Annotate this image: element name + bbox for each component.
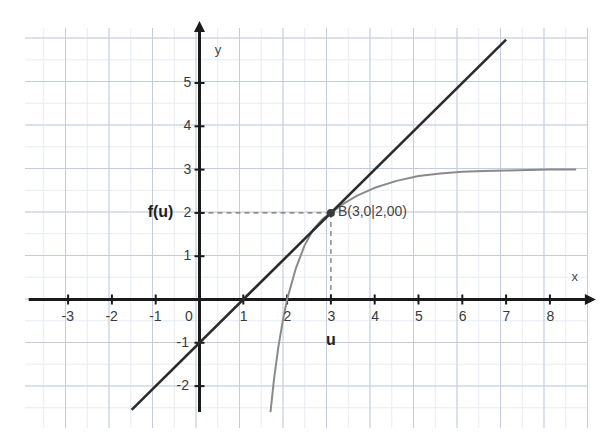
graph-figure: x y f(u) u B(3,0|2,00) -3-2-1012345678-2… — [0, 0, 609, 432]
y-tick-label: -1 — [177, 335, 189, 349]
u-label: u — [326, 332, 336, 348]
axes — [29, 21, 596, 412]
x-tick-label: -1 — [149, 309, 161, 323]
x-tick-label: 0 — [185, 309, 193, 323]
x-tick-label: 1 — [240, 309, 248, 323]
y-tick-label: 1 — [184, 248, 192, 262]
marked-point-b — [327, 209, 335, 217]
y-tick-label: 5 — [184, 75, 192, 89]
y-tick-label: 2 — [184, 205, 192, 219]
x-tick-label: -3 — [62, 309, 74, 323]
logarithmic-curve — [270, 170, 576, 412]
x-tick-label: -2 — [105, 309, 117, 323]
y-tick-label: 4 — [184, 118, 192, 132]
y-tick-label: 3 — [184, 162, 192, 176]
x-axis-label: x — [572, 270, 579, 283]
x-tick-label: 3 — [327, 309, 335, 323]
x-tick-label: 2 — [284, 309, 292, 323]
x-tick-label: 4 — [371, 309, 379, 323]
x-tick-label: 5 — [415, 309, 423, 323]
x-tick-label: 6 — [459, 309, 467, 323]
y-tick-label: -2 — [177, 378, 189, 392]
point-b-label: B(3,0|2,00) — [338, 204, 407, 218]
y-axis-label: y — [215, 43, 222, 56]
tangent-line — [132, 40, 506, 410]
f-of-u-label: f(u) — [148, 204, 174, 220]
plot-canvas — [0, 0, 609, 432]
x-tick-label: 8 — [546, 309, 554, 323]
x-tick-label: 7 — [503, 309, 511, 323]
x-axis-arrow — [585, 294, 596, 305]
y-axis-arrow — [194, 21, 205, 32]
guide-lines — [200, 213, 331, 300]
